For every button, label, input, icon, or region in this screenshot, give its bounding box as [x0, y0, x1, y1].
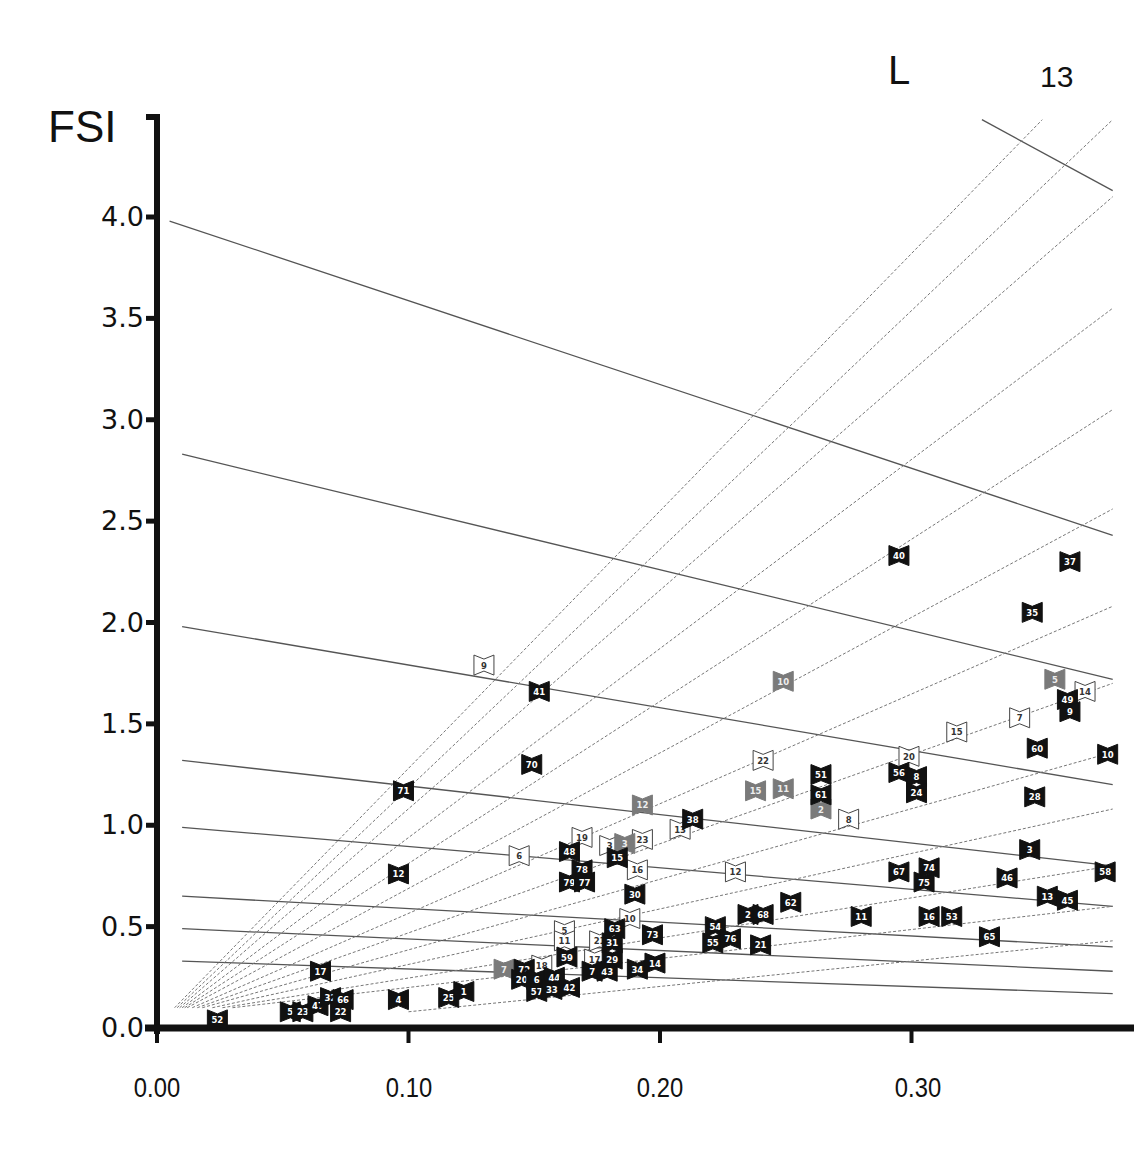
white-marker: 22: [753, 750, 773, 770]
marker-label: 15: [750, 786, 762, 796]
axes: [145, 115, 1134, 1043]
marker-label: 17: [315, 967, 327, 977]
marker-label: 62: [785, 898, 797, 908]
marker-label: 2: [818, 805, 824, 815]
black-marker: 35: [1022, 602, 1042, 622]
data-markers: 9619323161312228201571451121101817712315…: [207, 546, 1117, 1030]
marker-label: 75: [918, 878, 930, 888]
iso-line: [982, 120, 1113, 191]
black-marker: 42: [559, 977, 579, 997]
gray-marker: 15: [746, 781, 766, 801]
page-number: 13: [1040, 60, 1073, 94]
marker-label: 37: [1064, 557, 1076, 567]
y-tick-label: 2.0: [66, 607, 144, 638]
marker-label: 22: [757, 756, 769, 766]
black-marker: 30: [625, 884, 645, 904]
marker-label: 13: [1041, 892, 1053, 902]
gray-marker: 7: [494, 959, 514, 979]
marker-label: 59: [561, 953, 573, 963]
marker-label: 79: [564, 878, 576, 888]
l-label: L: [888, 48, 910, 93]
x-tick-label: 0.30: [867, 1072, 969, 1104]
ratio-ray: [182, 308, 1113, 1007]
black-marker: 16: [919, 906, 939, 926]
y-tick-label: 0.0: [66, 1012, 144, 1043]
scatter-chart: 9619323161312228201571451121101817712315…: [0, 0, 1134, 1151]
marker-label: 7: [1017, 713, 1023, 723]
marker-label: 12: [636, 800, 648, 810]
marker-label: 3: [1027, 845, 1033, 855]
marker-label: 48: [564, 847, 576, 857]
marker-label: 51: [815, 770, 827, 780]
white-marker: 12: [725, 862, 745, 882]
ratio-ray: [175, 120, 1043, 1008]
black-marker: 65: [979, 927, 999, 947]
black-marker: 12: [388, 864, 408, 884]
white-marker: 7: [1010, 708, 1030, 728]
marker-label: 19: [576, 833, 588, 843]
black-marker: 38: [683, 809, 703, 829]
marker-label: 9: [1067, 707, 1073, 717]
marker-label: 67: [893, 867, 905, 877]
marker-label: 15: [951, 727, 963, 737]
marker-label: 56: [893, 768, 905, 778]
marker-label: 8: [846, 815, 852, 825]
black-marker: 51: [811, 765, 831, 785]
marker-label: 6: [534, 975, 540, 985]
marker-label: 68: [757, 910, 769, 920]
marker-label: 23: [297, 1007, 309, 1017]
marker-label: 7: [501, 965, 507, 975]
white-marker: 6: [509, 846, 529, 866]
marker-label: 61: [815, 790, 827, 800]
white-marker: 23: [632, 829, 652, 849]
black-marker: 4: [388, 990, 408, 1010]
white-marker: 9: [474, 655, 494, 675]
black-marker: 21: [751, 935, 771, 955]
black-marker: 37: [1060, 552, 1080, 572]
marker-label: 71: [398, 786, 410, 796]
ratio-ray: [232, 906, 1112, 1007]
marker-label: 77: [579, 878, 591, 888]
black-marker: 34: [627, 959, 647, 979]
marker-label: 73: [647, 930, 659, 940]
marker-label: 53: [946, 912, 958, 922]
y-tick-label: 4.0: [66, 201, 144, 232]
iso-line: [182, 454, 1113, 679]
marker-label: 23: [636, 835, 648, 845]
x-tick-label: 0.20: [609, 1072, 711, 1104]
marker-label: 52: [211, 1015, 223, 1025]
black-marker: 67: [889, 862, 909, 882]
marker-label: 38: [687, 815, 699, 825]
black-marker: 55: [703, 933, 723, 953]
marker-label: 16: [631, 865, 643, 875]
marker-label: 76: [724, 934, 736, 944]
marker-label: 28: [1029, 792, 1041, 802]
marker-label: 58: [1099, 867, 1111, 877]
marker-label: 35: [1026, 608, 1038, 618]
marker-label: 12: [730, 867, 742, 877]
marker-label: 57: [531, 987, 543, 997]
marker-label: 10: [1102, 750, 1114, 760]
marker-label: 7: [589, 967, 595, 977]
marker-label: 70: [526, 760, 538, 770]
marker-label: 60: [1031, 744, 1043, 754]
marker-label: 14: [649, 959, 661, 969]
gray-marker: 5: [1045, 669, 1065, 689]
marker-label: 15: [611, 853, 623, 863]
marker-label: 9: [481, 661, 487, 671]
iso-line: [170, 221, 1113, 535]
black-marker: 53: [942, 906, 962, 926]
marker-label: 25: [443, 993, 455, 1003]
black-marker: 48: [559, 842, 579, 862]
black-marker: 13: [1037, 886, 1057, 906]
gray-marker: 11: [773, 779, 793, 799]
white-marker: 16: [627, 860, 647, 880]
marker-label: 30: [629, 890, 641, 900]
iso-line: [182, 627, 1113, 785]
white-marker: 14: [1075, 681, 1095, 701]
ratio-ray: [185, 410, 1113, 1008]
black-marker: 61: [811, 785, 831, 805]
x-tick-label: 0.00: [106, 1072, 208, 1104]
marker-label: 6: [516, 851, 522, 861]
black-marker: 45: [1057, 890, 1077, 910]
